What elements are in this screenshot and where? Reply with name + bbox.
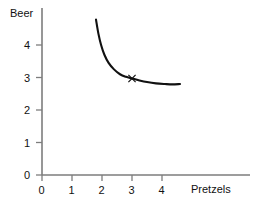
x-tick-label-2: 2 bbox=[99, 185, 105, 196]
x-tick-label-0: 0 bbox=[39, 185, 45, 196]
y-axis-title: Beer bbox=[10, 8, 33, 19]
x-tick-label-4: 4 bbox=[159, 185, 165, 196]
plot-area bbox=[0, 0, 268, 210]
x-tick-label-3: 3 bbox=[129, 185, 135, 196]
y-tick-label-4: 4 bbox=[24, 40, 30, 51]
indifference-curve bbox=[96, 20, 180, 85]
y-tick-label-3: 3 bbox=[24, 73, 30, 84]
x-axis-title: Pretzels bbox=[191, 184, 231, 195]
x-tick-label-1: 1 bbox=[69, 185, 75, 196]
y-tick-label-0: 0 bbox=[24, 170, 30, 181]
y-tick-label-1: 1 bbox=[24, 138, 30, 149]
y-tick-label-2: 2 bbox=[24, 105, 30, 116]
chart-figure: 0 1 2 3 4 0 1 2 3 4 Beer Pretzels bbox=[0, 0, 268, 210]
